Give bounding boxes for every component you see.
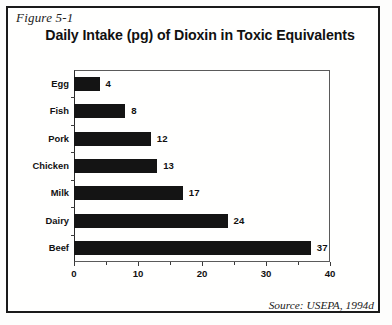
category-label-pork: Pork	[0, 132, 69, 146]
x-axis-tick-label: 30	[261, 268, 272, 279]
bar-value-pork: 12	[157, 132, 168, 146]
figure-container: Figure 5-1 Daily Intake (pg) of Dioxin i…	[0, 0, 392, 325]
bar-chicken: Chicken13	[74, 159, 157, 173]
bar-value-dairy: 24	[234, 214, 245, 228]
bar-row: Pork12	[74, 125, 330, 152]
bar-value-beef: 37	[317, 241, 328, 255]
x-axis-tick	[202, 262, 203, 266]
category-label-milk: Milk	[0, 186, 69, 200]
y-axis-tick	[71, 152, 75, 153]
category-label-dairy: Dairy	[0, 214, 69, 228]
x-axis-tick	[266, 262, 267, 266]
source-note: Source: USEPA, 1994d	[269, 299, 374, 311]
bar-value-egg: 4	[106, 77, 111, 91]
bar-egg: Egg4	[74, 77, 100, 91]
y-axis-tick	[71, 207, 75, 208]
bar-beef: Beef37	[74, 241, 311, 255]
bar-pork: Pork12	[74, 132, 151, 146]
bar-row: Dairy24	[74, 207, 330, 234]
x-axis-tick	[106, 262, 107, 265]
category-label-beef: Beef	[0, 241, 69, 255]
bar-row: Chicken13	[74, 152, 330, 179]
category-label-fish: Fish	[0, 104, 69, 118]
bar-row: Egg4	[74, 70, 330, 97]
x-axis-tick	[74, 262, 75, 266]
x-axis-tick-label: 0	[71, 268, 76, 279]
category-label-egg: Egg	[0, 77, 69, 91]
x-axis-tick	[298, 262, 299, 265]
x-axis-tick	[330, 262, 331, 266]
bar-value-chicken: 13	[163, 159, 174, 173]
bar-value-fish: 8	[131, 104, 136, 118]
chart-title: Daily Intake (pg) of Dioxin in Toxic Equ…	[30, 27, 370, 43]
x-axis-tick	[170, 262, 171, 265]
plot-area: Egg4Fish8Pork12Chicken13Milk17Dairy24Bee…	[74, 70, 330, 262]
x-axis-tick	[234, 262, 235, 265]
y-axis-tick	[71, 180, 75, 181]
bar-dairy: Dairy24	[74, 214, 228, 228]
y-axis-tick	[71, 235, 75, 236]
category-label-chicken: Chicken	[0, 159, 69, 173]
bar-row: Milk17	[74, 180, 330, 207]
y-axis-tick	[71, 97, 75, 98]
bar-milk: Milk17	[74, 186, 183, 200]
y-axis-tick	[71, 125, 75, 126]
x-axis-tick-label: 10	[133, 268, 144, 279]
x-axis-tick-label: 40	[325, 268, 336, 279]
bar-row: Beef37	[74, 235, 330, 262]
figure-caption: Figure 5-1	[16, 10, 73, 26]
x-axis-tick	[138, 262, 139, 266]
bar-value-milk: 17	[189, 186, 200, 200]
bar-fish: Fish8	[74, 104, 125, 118]
bar-row: Fish8	[74, 97, 330, 124]
x-axis-tick-label: 20	[197, 268, 208, 279]
